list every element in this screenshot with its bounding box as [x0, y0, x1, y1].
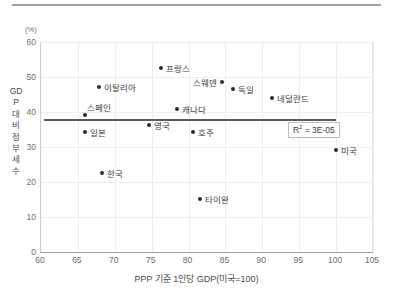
x-tick-label: 70 — [101, 255, 127, 265]
gridline-horizontal — [41, 217, 373, 218]
data-point — [97, 85, 101, 89]
data-point — [83, 113, 87, 117]
data-point-label: 프랑스 — [166, 62, 190, 74]
data-point — [334, 148, 338, 152]
data-point-label: 미국 — [341, 144, 357, 156]
gridline-vertical — [373, 42, 374, 252]
y-tick-label: 0 — [14, 247, 36, 257]
data-point-label: 스웨덴 — [193, 76, 217, 88]
y-tick-label: 20 — [14, 177, 36, 187]
data-point-label: 네덜란드 — [277, 92, 309, 104]
x-tick-label: 100 — [322, 255, 348, 265]
r-squared-annotation: R2 = 3E-05 — [288, 122, 340, 138]
data-point — [220, 80, 224, 84]
data-point-label: 타이완 — [205, 193, 229, 205]
data-point-label: 스페인 — [87, 101, 111, 113]
y-tick-label: 40 — [14, 107, 36, 117]
data-point — [231, 87, 235, 91]
data-point — [83, 130, 87, 134]
data-point-label: 한국 — [107, 167, 123, 179]
data-point-label: 이탈리아 — [104, 81, 136, 93]
y-tick-label: 10 — [14, 212, 36, 222]
data-point-label: 일본 — [90, 126, 106, 138]
plot-area: 프랑스스웨덴이탈리아독일네덜란드캐나다스페인영국호주일본미국한국타이완 — [40, 42, 373, 253]
data-point — [270, 96, 274, 100]
x-tick-label: 105 — [359, 255, 385, 265]
x-tick-label: 80 — [175, 255, 201, 265]
gridline-horizontal — [41, 182, 373, 183]
data-point-label: 영국 — [154, 119, 170, 131]
y-axis-unit-label: (%) — [25, 25, 37, 34]
x-tick-label: 75 — [138, 255, 164, 265]
scatter-chart-figure: (%) GDP 대비 정부세수 프랑스스웨덴이탈리아독일네덜란드캐나다스페인영국… — [0, 0, 393, 298]
x-tick-label: 90 — [248, 255, 274, 265]
gridline-horizontal — [41, 42, 373, 43]
data-point — [159, 66, 163, 70]
data-point — [147, 123, 151, 127]
trendline — [44, 119, 336, 121]
y-tick-label: 60 — [14, 37, 36, 47]
y-tick-label: 30 — [14, 142, 36, 152]
data-point — [175, 107, 179, 111]
x-tick-label: 95 — [285, 255, 311, 265]
y-axis-title: GDP 대비 정부세수 — [9, 86, 23, 177]
data-point — [191, 130, 195, 134]
data-point — [100, 171, 104, 175]
x-axis-title: PPP 기준 1인당 GDP(미국=100) — [0, 272, 393, 285]
y-tick-label: 50 — [14, 72, 36, 82]
x-tick-label: 85 — [211, 255, 237, 265]
data-point-label: 캐나다 — [182, 103, 206, 115]
gridline-horizontal — [41, 147, 373, 148]
data-point-label: 호주 — [198, 126, 214, 138]
x-tick-label: 65 — [64, 255, 90, 265]
data-point — [198, 197, 202, 201]
data-point-label: 독일 — [238, 83, 254, 95]
